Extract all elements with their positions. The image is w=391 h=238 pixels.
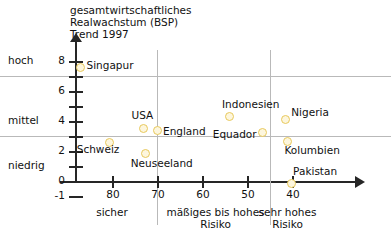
x-axis-tick: [202, 176, 204, 188]
x-axis-tick: [112, 176, 114, 188]
chart-canvas: gesamtwirtschaftliches Realwachstum (BSP…: [0, 0, 391, 238]
y-axis-tick: [69, 76, 83, 78]
y-axis-category-label: hoch: [8, 54, 56, 66]
x-axis-tick: [157, 176, 159, 188]
data-point-marker: [139, 124, 148, 133]
data-point-label: USA: [132, 109, 154, 121]
x-axis-tick: [247, 176, 249, 188]
data-point-marker: [287, 179, 296, 188]
data-point-label: Pakistan: [293, 165, 337, 177]
y-axis-category-label: mittel: [8, 114, 56, 126]
x-axis-category-label: sehr hohes Risiko: [228, 206, 348, 230]
y-axis-arrow-icon: [70, 33, 82, 42]
gridline-horizontal: [0, 76, 391, 77]
data-point-marker: [76, 63, 85, 72]
y-axis-tick-label: -1: [45, 189, 65, 201]
y-axis-tick: [69, 136, 83, 138]
data-point-label: Schweiz: [77, 143, 120, 155]
x-axis-tick-label: 80: [98, 188, 128, 200]
x-axis-tick-label: 70: [143, 188, 173, 200]
data-point-label: Singapur: [87, 59, 134, 71]
data-point-marker: [281, 115, 290, 124]
y-axis-tick-label: 2: [45, 144, 65, 156]
data-point-label: Neuseeland: [131, 157, 193, 169]
data-point-label: Equador: [213, 128, 257, 140]
y-axis-tick: [69, 121, 83, 123]
y-axis-tick-label: 0: [45, 174, 65, 186]
y-axis-tick: [69, 181, 83, 183]
data-point-marker: [225, 112, 234, 121]
data-point-marker: [153, 126, 162, 135]
y-axis-tick: [69, 166, 83, 168]
chart-title: gesamtwirtschaftliches Realwachstum (BSP…: [70, 4, 290, 41]
x-axis-line: [60, 181, 358, 183]
data-point-marker: [258, 128, 267, 137]
x-axis-tick-label: 50: [233, 188, 263, 200]
data-point-label: Kolumbien: [285, 144, 340, 156]
data-point-label: Indonesien: [222, 98, 279, 110]
y-axis-tick: [69, 91, 83, 93]
x-axis-arrow-icon: [355, 176, 365, 188]
y-axis-tick: [69, 106, 83, 108]
x-axis-category-label: sicher: [52, 206, 172, 218]
x-axis-tick-label: 40: [278, 188, 308, 200]
y-axis-tick-label: 6: [45, 84, 65, 96]
y-axis-tick: [69, 196, 83, 198]
y-axis-category-label: niedrig: [8, 159, 56, 171]
x-axis-tick-label: 60: [188, 188, 218, 200]
gridline-vertical: [270, 50, 271, 225]
data-point-label: England: [163, 125, 206, 137]
data-point-label: Nigeria: [291, 106, 329, 118]
